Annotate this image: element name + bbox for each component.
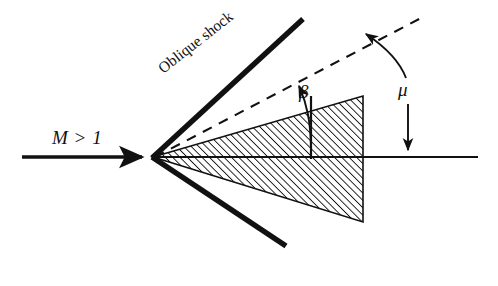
mu-angle-label: μ: [398, 80, 408, 99]
mu-angle-arc-upper: [366, 34, 406, 78]
beta-angle-label: β: [299, 82, 308, 101]
freestream-mach-label: M > 1: [52, 128, 102, 147]
oblique-shock-figure: M > 1 Oblique shock β μ: [0, 0, 498, 286]
wedge-body: [153, 96, 363, 222]
